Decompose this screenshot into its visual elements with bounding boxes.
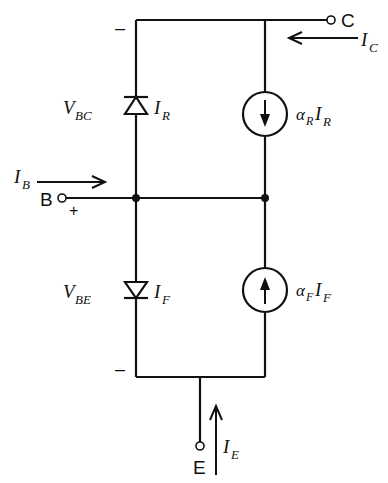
svg-text:E: E: [230, 447, 239, 462]
source-upper-label: α R I R: [296, 103, 331, 129]
svg-text:I: I: [13, 166, 22, 187]
svg-text:R: R: [305, 114, 314, 128]
ic-arrow-icon: [289, 32, 358, 44]
diode-upper-current-label: I R: [153, 97, 170, 123]
svg-text:I: I: [314, 279, 323, 300]
svg-text:I: I: [153, 97, 162, 118]
source-lower-label: α F I F: [296, 279, 332, 305]
emitter-terminal: [196, 442, 204, 450]
svg-text:I: I: [360, 29, 369, 50]
svg-text:F: F: [305, 290, 314, 304]
collector-label: C: [341, 10, 355, 31]
current-source-upper-icon: [243, 92, 287, 136]
ic-label: I C: [360, 29, 378, 55]
diode-lower-icon: [124, 282, 148, 298]
svg-text:R: R: [161, 108, 170, 123]
junction-dot-right: [261, 194, 269, 202]
collector-terminal: [327, 16, 335, 24]
polarity-bottom-minus: –: [115, 359, 125, 379]
vbe-label: V BE: [63, 281, 91, 307]
base-terminal: [58, 194, 66, 202]
ie-label: I E: [222, 436, 239, 462]
ie-arrow-icon: [210, 406, 222, 475]
svg-text:B: B: [22, 177, 30, 192]
svg-text:I: I: [153, 281, 162, 302]
ib-arrow-icon: [37, 176, 105, 188]
ebers-moll-circuit: C B E – + – I C I B I E V BC V BE I R I …: [0, 0, 388, 483]
polarity-base-plus: +: [69, 202, 78, 219]
svg-text:α: α: [296, 105, 306, 124]
emitter-label: E: [193, 457, 206, 478]
junction-dot-left: [132, 194, 140, 202]
polarity-top-minus: –: [115, 18, 125, 38]
svg-text:BC: BC: [75, 108, 92, 123]
svg-text:F: F: [161, 292, 171, 307]
ib-label: I B: [13, 166, 30, 192]
svg-text:C: C: [369, 40, 378, 55]
svg-text:α: α: [296, 281, 306, 300]
current-source-lower-icon: [243, 268, 287, 312]
diode-upper-icon: [124, 97, 148, 114]
base-label: B: [40, 189, 53, 210]
svg-text:F: F: [322, 290, 332, 305]
svg-text:I: I: [314, 103, 323, 124]
svg-text:I: I: [222, 436, 231, 457]
svg-text:R: R: [322, 114, 331, 129]
svg-text:BE: BE: [75, 292, 91, 307]
vbc-label: V BC: [63, 97, 92, 123]
diode-lower-current-label: I F: [153, 281, 171, 307]
